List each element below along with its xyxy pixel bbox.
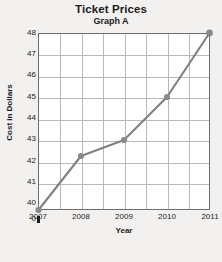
y-tick-41: 41 xyxy=(2,178,36,186)
gridline-y-43 xyxy=(39,141,209,142)
gridline-x-2009 xyxy=(125,34,126,209)
y-tick-46: 46 xyxy=(2,71,36,79)
gridline-x-2010 xyxy=(168,34,169,209)
gridline-x-minor-1 xyxy=(60,34,61,209)
x-tick-2008: 2008 xyxy=(61,212,101,221)
gridline-y-45 xyxy=(39,98,209,99)
y-tick-48: 48 xyxy=(2,29,36,37)
gridline-y-46 xyxy=(39,77,209,78)
gridline-y-41 xyxy=(39,184,209,185)
y-tick-43: 43 xyxy=(2,135,36,143)
axis-break-marker xyxy=(37,216,40,223)
x-tick-2011: 2011 xyxy=(190,212,222,221)
gridline-y-47 xyxy=(39,55,209,56)
gridline-y-42 xyxy=(39,163,209,164)
x-tick-2009: 2009 xyxy=(104,212,144,221)
gridline-x-minor-3 xyxy=(146,34,147,209)
y-tick-42: 42 xyxy=(2,157,36,165)
y-tick-40: 40 xyxy=(2,199,36,207)
y-tick-47: 47 xyxy=(2,50,36,58)
y-tick-44: 44 xyxy=(2,114,36,122)
gridline-y-44 xyxy=(39,120,209,121)
plot-area xyxy=(38,33,210,210)
x-tick-2010: 2010 xyxy=(147,212,187,221)
x-axis-label: Year xyxy=(38,226,210,235)
y-tick-45: 45 xyxy=(2,93,36,101)
gridline-x-2008 xyxy=(82,34,83,209)
chart-container: Ticket Prices Graph A Cost in Dollars Ye… xyxy=(0,0,222,262)
gridline-x-minor-4 xyxy=(189,34,190,209)
gridline-x-minor-2 xyxy=(103,34,104,209)
y-axis-ticks: 48 47 46 45 44 43 42 41 40 0 xyxy=(0,0,36,262)
